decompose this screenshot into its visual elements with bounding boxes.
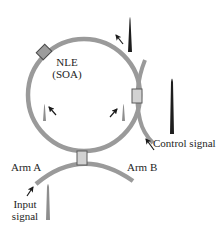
nolm-diagram: NLE (SOA) Control signal Arm A Arm B Inp… [0,0,223,237]
cw-pulse [119,104,128,121]
arm-a-label: Arm A [11,161,41,173]
input-signal-label: Input signal [8,198,42,222]
input-label-line1: Input [8,198,42,210]
nle-label-line2: (SOA) [52,68,82,80]
bus-fiber [36,164,133,184]
input-pulse [44,184,52,220]
arm-b-label: Arm B [127,161,157,173]
control-pulse-in [167,79,177,135]
control-coupler [132,89,142,103]
nle-soa-block [36,44,52,60]
main-coupler [77,151,87,165]
input-label-line2: signal [8,210,42,222]
nle-label: NLE (SOA) [52,56,82,80]
nle-label-line1: NLE [52,56,82,68]
ccw-pulse [40,104,49,121]
arrow-input [27,187,33,196]
control-signal-label: Control signal [153,137,216,149]
arrow-control-out [116,35,123,44]
control-pulse-out [125,17,135,52]
arrow-ccw [49,107,56,115]
arrow-cw [110,109,117,117]
